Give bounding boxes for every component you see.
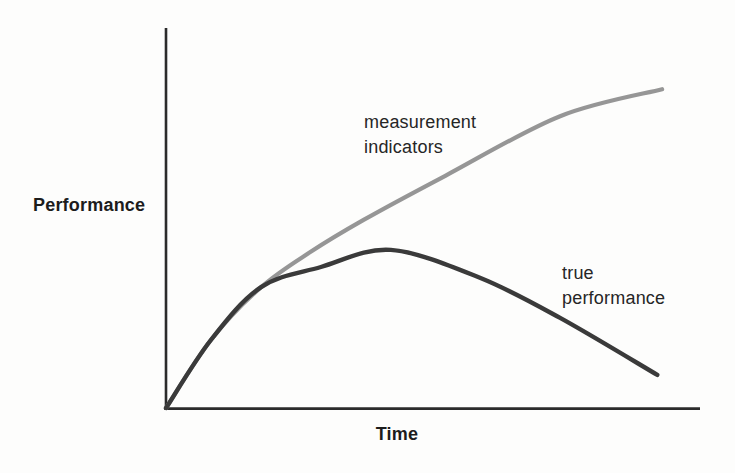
- y-axis-label: Performance: [33, 195, 145, 216]
- series-label-true-performance: true performance: [562, 261, 665, 311]
- x-axis-label: Time: [337, 424, 457, 445]
- chart-svg: [0, 0, 735, 473]
- figure-canvas: Performance Time measurement indicators …: [0, 0, 735, 473]
- series-label-measurement-indicators: measurement indicators: [364, 110, 476, 160]
